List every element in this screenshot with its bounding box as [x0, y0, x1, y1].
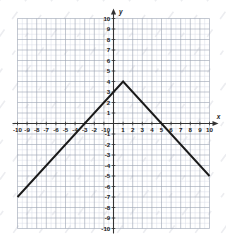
- y-axis-tick-label: -10: [101, 225, 111, 232]
- y-axis-tick-label: -8: [105, 204, 111, 211]
- x-axis-name-label: x: [216, 113, 221, 120]
- y-axis-tick-label: -3: [105, 151, 111, 158]
- x-axis-tick-label: -6: [53, 126, 59, 133]
- y-axis-tick-label: 6: [107, 57, 111, 64]
- y-axis-tick-label: 8: [107, 36, 111, 43]
- y-axis-tick-label: 9: [107, 25, 111, 32]
- y-axis-name-label: y: [118, 8, 123, 16]
- x-axis-tick-label: 1: [121, 126, 125, 133]
- y-axis-tick-label: -5: [105, 172, 111, 179]
- x-axis-tick-label: -5: [63, 126, 69, 133]
- x-axis-tick-label: -10: [13, 126, 23, 133]
- x-axis-tick-label: -9: [24, 126, 30, 133]
- x-axis-tick-label: 5: [160, 126, 164, 133]
- x-axis-tick-label: 3: [141, 126, 145, 133]
- y-axis-tick-label: -2: [105, 141, 111, 148]
- x-axis-tick-label: 7: [179, 126, 183, 133]
- y-axis-arrowhead: [111, 9, 116, 15]
- y-axis-tick-label: 7: [107, 46, 111, 53]
- x-axis-tick-label: 10: [206, 126, 213, 133]
- y-axis-tick-label: -7: [105, 193, 111, 200]
- origin-label: 0: [107, 126, 111, 133]
- y-axis-tick-label: -9: [105, 214, 111, 221]
- x-axis-tick-label: -2: [92, 126, 98, 133]
- y-axis-tick-label: 4: [107, 78, 111, 85]
- watermark-streak: [222, 0, 227, 237]
- x-axis-tick-label: -3: [82, 126, 88, 133]
- coordinate-graph-figure: -10-9-8-7-6-5-4-3-2-11234567891010987654…: [0, 0, 226, 237]
- x-axis-tick-label: 4: [150, 126, 154, 133]
- x-axis-tick-label: 8: [189, 126, 193, 133]
- axes-layer: [13, 9, 219, 234]
- y-axis-tick-label: -4: [105, 162, 111, 169]
- y-axis-tick-label: -6: [105, 183, 111, 190]
- y-axis-tick-label: 5: [107, 67, 111, 74]
- x-axis-arrowhead: [213, 121, 219, 126]
- x-axis-tick-label: -8: [34, 126, 40, 133]
- x-axis-tick-label: -7: [44, 126, 50, 133]
- plot-canvas: -10-9-8-7-6-5-4-3-2-11234567891010987654…: [0, 0, 226, 237]
- x-axis-tick-label: 2: [131, 126, 135, 133]
- x-axis-tick-label: 9: [198, 126, 202, 133]
- watermark-streak: [0, 0, 16, 237]
- y-axis-tick-label: 1: [107, 109, 111, 116]
- y-axis-tick-label: 10: [103, 15, 110, 22]
